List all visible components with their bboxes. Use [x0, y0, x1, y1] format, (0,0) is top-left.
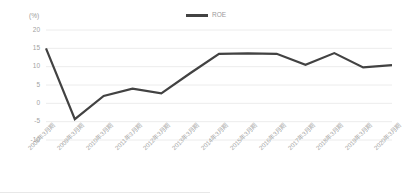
y-tick-label: 5 [24, 82, 40, 89]
y-tick-label: 10 [24, 63, 40, 70]
roe-line-chart: (%) ROE 20151050-5-10 2008年3月期2009年3月期20… [0, 0, 409, 196]
y-tick-label: 0 [24, 100, 40, 107]
plot-area [0, 0, 409, 196]
y-tick-label: -5 [24, 118, 40, 125]
footer-divider [0, 192, 210, 193]
series-lines [46, 48, 392, 119]
series-line-roe [46, 48, 392, 119]
y-tick-label: 15 [24, 45, 40, 52]
y-tick-label: 20 [24, 27, 40, 34]
